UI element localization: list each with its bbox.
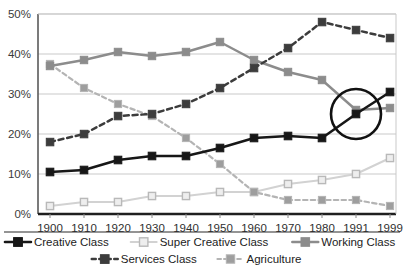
- series-layer: [46, 18, 394, 209]
- series-line: [50, 42, 390, 110]
- data-point-marker: [284, 132, 292, 140]
- data-point-marker: [318, 76, 325, 83]
- data-point-marker: [182, 48, 189, 55]
- data-point-marker: [114, 156, 122, 164]
- legend-marker: [226, 255, 234, 263]
- legend-item-super-creative-class[interactable]: Super Creative Class: [131, 236, 269, 248]
- data-point-marker: [216, 144, 224, 152]
- data-point-marker: [352, 110, 360, 118]
- data-point-marker: [284, 180, 291, 187]
- data-point-marker: [386, 154, 393, 161]
- data-point-marker: [318, 196, 325, 203]
- data-point-marker: [46, 202, 53, 209]
- y-axis-tick-label: 10%: [8, 168, 31, 180]
- legend-marker: [100, 255, 109, 264]
- legend-label: Super Creative Class: [160, 236, 269, 248]
- data-point-marker: [250, 64, 257, 72]
- data-point-marker: [216, 84, 224, 92]
- data-point-marker: [216, 160, 223, 167]
- x-axis: 1900191019201930194019501960197019801991…: [37, 214, 403, 234]
- series-working-class: [46, 38, 393, 113]
- data-point-marker: [386, 88, 394, 96]
- data-point-marker: [148, 192, 155, 199]
- data-point-marker: [250, 134, 258, 142]
- legend-label: Working Class: [321, 236, 395, 248]
- data-point-marker: [46, 62, 53, 69]
- legend: Creative ClassSuper Creative ClassWorkin…: [5, 236, 395, 265]
- data-point-marker: [80, 166, 88, 174]
- data-point-marker: [182, 134, 189, 141]
- legend-label: Creative Class: [34, 236, 109, 248]
- data-point-marker: [148, 152, 156, 160]
- series-services-class: [46, 18, 394, 146]
- data-point-marker: [216, 188, 223, 195]
- data-point-marker: [318, 176, 325, 183]
- y-axis-tick-label: 30%: [8, 88, 31, 100]
- data-point-marker: [284, 44, 292, 52]
- data-point-marker: [386, 202, 393, 209]
- data-point-marker: [114, 112, 122, 120]
- data-point-marker: [114, 198, 121, 205]
- data-point-marker: [114, 48, 121, 55]
- data-point-marker: [250, 188, 257, 195]
- data-point-marker: [352, 26, 360, 34]
- legend-label: Services Class: [121, 253, 197, 265]
- legend-item-creative-class[interactable]: Creative Class: [5, 236, 109, 248]
- chart-container: 0%10%20%30%40%50%19001910192019301940195…: [0, 0, 404, 279]
- legend-marker: [301, 238, 310, 247]
- legend-item-working-class[interactable]: Working Class: [292, 236, 395, 248]
- data-point-marker: [80, 84, 87, 91]
- data-point-marker: [80, 130, 88, 138]
- data-point-marker: [318, 18, 326, 26]
- data-point-marker: [80, 56, 87, 63]
- data-point-marker: [318, 134, 326, 142]
- data-point-marker: [182, 192, 189, 199]
- data-point-marker: [386, 34, 394, 42]
- data-point-marker: [182, 152, 190, 160]
- data-point-marker: [284, 68, 291, 75]
- data-point-marker: [46, 168, 54, 176]
- y-axis-tick-label: 0%: [14, 208, 31, 220]
- legend-item-services-class[interactable]: Services Class: [92, 253, 197, 265]
- line-chart: 0%10%20%30%40%50%19001910192019301940195…: [0, 0, 404, 279]
- legend-marker: [14, 238, 23, 247]
- data-point-marker: [386, 104, 393, 111]
- data-point-marker: [182, 100, 190, 108]
- data-point-marker: [352, 196, 359, 203]
- data-point-marker: [148, 52, 155, 59]
- data-point-marker: [352, 170, 359, 177]
- data-point-marker: [284, 196, 291, 203]
- legend-label: Agriculture: [246, 253, 301, 265]
- y-axis-tick-label: 20%: [8, 128, 31, 140]
- legend-item-agriculture[interactable]: Agriculture: [217, 253, 301, 265]
- data-point-marker: [114, 100, 121, 107]
- y-axis-tick-label: 50%: [8, 8, 31, 20]
- legend-marker: [140, 238, 148, 246]
- data-point-marker: [148, 110, 156, 118]
- data-point-marker: [250, 56, 257, 63]
- data-point-marker: [46, 138, 54, 146]
- y-gridlines: 0%10%20%30%40%50%: [8, 8, 396, 220]
- data-point-marker: [80, 198, 87, 205]
- data-point-marker: [216, 38, 223, 45]
- y-axis-tick-label: 40%: [8, 48, 31, 60]
